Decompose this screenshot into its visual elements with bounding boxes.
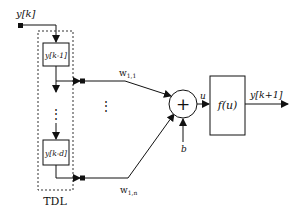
tap-last-line <box>56 165 80 178</box>
weight-first-connection <box>85 81 171 96</box>
sum-output-label: u <box>200 91 206 101</box>
activation-label: f(u) <box>217 99 238 112</box>
input-label: y[k] <box>15 8 36 19</box>
bias-label: b <box>181 144 187 154</box>
tdl-label: TDL <box>43 195 67 208</box>
delay-first-label: y[k-1] <box>44 51 67 60</box>
tap-last-node <box>80 176 85 181</box>
delay-last-label: y[k-d] <box>44 149 67 158</box>
weight-last-connection <box>85 114 174 178</box>
tap-first-node <box>80 79 85 84</box>
tdl-neuron-diagram: y[k] TDL y[k-1] ⋮ y[k-d] w1,1 w1,n ⋮ + b… <box>0 0 299 215</box>
tdl-ellipsis: ⋮ <box>50 107 62 121</box>
plus-icon: + <box>176 94 190 114</box>
weight-first-label: w1,1 <box>119 68 136 79</box>
weights-ellipsis: ⋮ <box>100 99 112 113</box>
output-label: y[k+1] <box>249 89 283 100</box>
weight-last-label: w1,n <box>120 185 137 196</box>
